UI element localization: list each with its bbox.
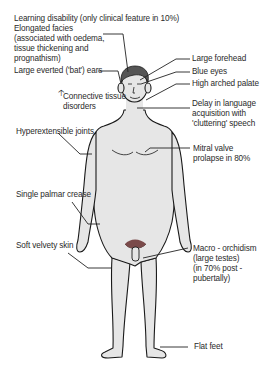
label-large-forehead: Large forehead <box>192 54 246 64</box>
right-leg <box>141 258 166 358</box>
label-hyperextensible-joints: Hyperextensible joints <box>16 127 94 137</box>
label-flat-feet: Flat feet <box>194 342 223 352</box>
right-arm <box>172 132 191 252</box>
label-connective-tissue: Connective tissue disorders <box>63 92 126 112</box>
label-blue-eyes: Blue eyes <box>192 67 227 77</box>
label-language-delay: Delay in language acquisition with 'clut… <box>192 99 256 129</box>
label-single-palmar-crease: Single palmar crease <box>16 190 91 200</box>
label-elongated-facies: Elongated facies (associated with oedema… <box>14 24 104 64</box>
label-soft-velvety-skin: Soft velvety skin <box>16 241 73 251</box>
label-learning-disability: Learning disability (only clinical featu… <box>14 14 268 24</box>
label-bat-ears: Large everted ('bat') ears <box>14 66 102 76</box>
label-high-arched-palate: High arched palate <box>192 79 259 89</box>
label-macro-orchidism: Macro - orchidism (large testes) (in 70%… <box>193 244 256 284</box>
label-mitral-valve: Mitral valve prolapse in 80% <box>193 144 250 164</box>
left-leg <box>102 258 130 358</box>
